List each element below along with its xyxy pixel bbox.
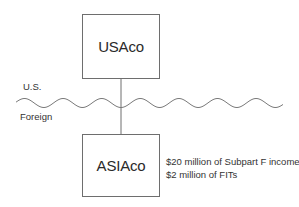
entity-box-usaco: USAco: [82, 14, 160, 79]
entity-label-usaco: USAco: [98, 38, 144, 55]
foreign-region-label: Foreign: [20, 112, 52, 122]
fits-note: $2 million of FITs: [166, 168, 237, 181]
border-wavy-line: [16, 99, 283, 108]
subpart-f-income-note: $20 million of Subpart F income: [166, 155, 299, 168]
us-region-label: U.S.: [23, 82, 41, 92]
entity-label-asiaco: ASIAco: [97, 157, 146, 174]
entity-box-asiaco: ASIAco: [82, 134, 160, 197]
